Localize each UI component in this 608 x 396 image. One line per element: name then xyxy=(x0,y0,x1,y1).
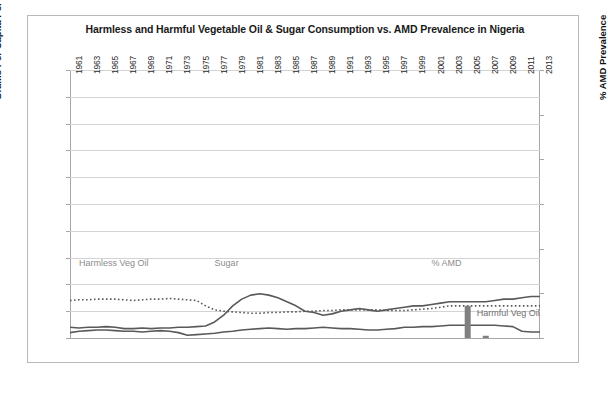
series-label-amd: % AMD xyxy=(432,258,462,268)
series-layer xyxy=(70,70,540,338)
gridline xyxy=(70,338,540,339)
amd-bar xyxy=(483,336,489,338)
chart-title: Harmless and Harmful Vegetable Oil & Sug… xyxy=(70,22,540,36)
y-axis-right-tickmark xyxy=(540,159,544,160)
plot-area: 020406080100120140160180200 051015202530… xyxy=(70,70,540,338)
y-axis-left-tickmark xyxy=(66,338,70,339)
y-axis-right-label: % AMD Prevalence xyxy=(597,15,608,100)
x-axis-tick: 2013 xyxy=(544,56,554,74)
y-axis-right-tickmark xyxy=(540,338,544,339)
y-axis-left-label: Grams Per Capita Per Day xyxy=(0,0,3,100)
series-label-harmless-veg-oil: Harmless Veg Oil xyxy=(79,258,149,268)
y-axis-right-tickmark xyxy=(540,293,544,294)
y-axis-right-tickmark xyxy=(540,249,544,250)
y-axis-right-tickmark xyxy=(540,204,544,205)
series-label-sugar: Sugar xyxy=(215,258,239,268)
amd-bar xyxy=(465,306,471,338)
y-axis-right-tickmark xyxy=(540,115,544,116)
series-label-harmful-veg-oil: Harmful Veg Oil xyxy=(477,308,540,318)
